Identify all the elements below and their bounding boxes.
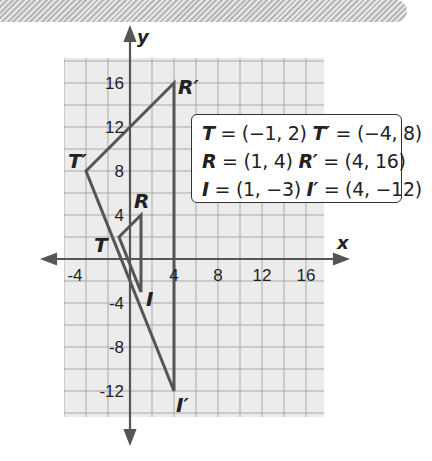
x-axis-left-arrow-icon (43, 254, 56, 264)
x-axis-right-arrow-icon (334, 254, 347, 264)
y-tick-label: -8 (109, 338, 124, 357)
legend-row-R: R = (1, 4) R′ = (4, 16) (202, 147, 401, 175)
x-tick-label: 12 (253, 266, 272, 285)
y-tick-label: -4 (109, 294, 124, 313)
vertex-label-I-prime: I′ (176, 393, 189, 417)
coordinate-plane: -4 4 8 12 16 16 12 8 4 -4 -8 -12 y x R′ … (0, 0, 432, 461)
x-tick-label: 16 (297, 266, 316, 285)
x-axis-label: x (336, 232, 350, 253)
vertex-label-R-prime: R′ (178, 75, 199, 99)
legend-coords: = (1, −3) (209, 178, 307, 200)
y-tick-label: 16 (105, 74, 124, 93)
legend-row-T: T = (−1, 2) T′ = (−4, 8) (202, 119, 401, 147)
y-tick-label: -12 (99, 382, 124, 401)
legend-var: R′ (298, 150, 317, 172)
y-axis-down-arrow-icon (125, 430, 135, 443)
legend-row-I: I = (1, −3) I′ = (4, −12) (202, 175, 401, 203)
legend-coords: = (1, 4) (216, 150, 298, 172)
legend-var: T (202, 122, 215, 144)
legend-var: R (202, 150, 216, 172)
vertex-label-I: I (146, 287, 154, 311)
y-axis-label: y (137, 26, 150, 47)
legend-coords: = (4, −12) (318, 178, 422, 200)
vertex-label-T-prime: T′ (68, 149, 88, 173)
legend-coords: = (−1, 2) (215, 122, 313, 144)
coordinates-legend-box: T = (−1, 2) T′ = (−4, 8) R = (1, 4) R′ =… (191, 114, 402, 203)
x-tick-label: 4 (169, 266, 178, 285)
legend-coords: = (4, 16) (318, 150, 406, 172)
y-tick-label: 4 (115, 206, 124, 225)
y-tick-label: 8 (115, 162, 124, 181)
vertex-label-T: T (94, 233, 109, 257)
x-tick-label: -4 (67, 266, 82, 285)
legend-var: T′ (312, 122, 329, 144)
x-tick-label: 8 (213, 266, 222, 285)
y-tick-label: 12 (105, 118, 124, 137)
legend-var: I′ (307, 178, 318, 200)
y-axis-up-arrow-icon (125, 28, 135, 41)
vertex-label-R: R (134, 189, 149, 213)
legend-var: I (202, 178, 209, 200)
legend-coords: = (−4, 8) (330, 122, 422, 144)
